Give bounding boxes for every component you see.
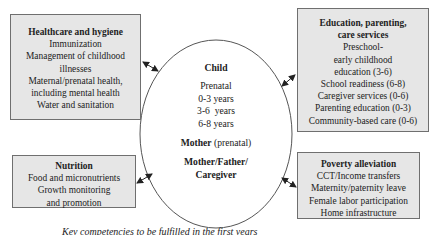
age-stage: 0-3 years (146, 93, 286, 105)
education-item: School readiness (6-8) (298, 78, 428, 90)
education-title-line1: Education, parenting, (298, 17, 428, 29)
education-box: Education, parenting, care services Pres… (297, 8, 429, 132)
education-item: early childhood (298, 54, 428, 66)
mother-bold: Mother (181, 137, 212, 148)
poverty-title: Poverty alleviation (298, 158, 419, 170)
education-item: Caregiver services (0-6) (298, 90, 428, 102)
education-item: Parenting education (0-3) (298, 102, 428, 114)
poverty-box: Poverty alleviation CCT/Income transfers… (297, 152, 420, 219)
poverty-item: Female labor participation (298, 195, 419, 207)
education-title-line2: care services (298, 29, 428, 41)
healthcare-item: Immunization (11, 38, 140, 50)
healthcare-item: Maternal/prenatal health, (11, 75, 140, 87)
education-item: Community-based care (0-6) (298, 115, 428, 127)
caregiver-label: Mother/Father/ Caregiver (146, 156, 286, 181)
nutrition-item: Food and micronutrients (13, 172, 135, 184)
poverty-item: Home infrastructure (298, 207, 419, 219)
center-content: Child Prenatal 0-3 years 3-6 years 6-8 y… (146, 62, 286, 181)
mother-note: (prenatal) (212, 137, 252, 148)
nutrition-title: Nutrition (13, 160, 135, 172)
education-item: education (3-6) (298, 66, 428, 78)
healthcare-title: Healthcare and hygiene (11, 26, 140, 38)
center-title: Child (146, 62, 286, 74)
healthcare-item: Water and sanitation (11, 99, 140, 111)
figure-caption: Key competencies to be fulfilled in the … (62, 226, 258, 235)
nutrition-box: Nutrition Food and micronutrients Growth… (12, 155, 136, 208)
age-stage: 6-8 years (146, 118, 286, 130)
education-item: Preschool- (298, 41, 428, 53)
nutrition-item: Growth monitoring (13, 184, 135, 196)
healthcare-item: Management of childhood (11, 50, 140, 62)
age-stage: Prenatal (146, 80, 286, 92)
poverty-item: CCT/Income transfers (298, 170, 419, 182)
healthcare-item: including mental health (11, 87, 140, 99)
mother-label: Mother (prenatal) (146, 137, 286, 149)
poverty-item: Maternity/paternity leave (298, 182, 419, 194)
healthcare-box: Healthcare and hygiene Immunization Mana… (10, 14, 141, 120)
age-stage: 3-6 years (146, 105, 286, 117)
nutrition-item: and promotion (13, 197, 135, 209)
healthcare-item: illnesses (11, 63, 140, 75)
